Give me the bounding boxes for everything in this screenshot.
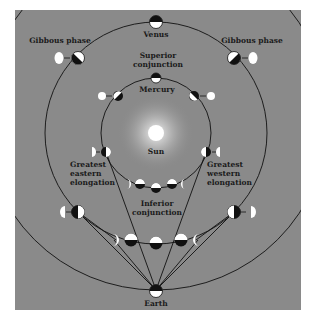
venus-gibbous-left [55,52,85,65]
label-sun: Sun [148,147,165,156]
label-greatest-western-2: western [206,169,241,178]
label-greatest-eastern-3: elongation [70,178,115,187]
mercury-greatest-western [201,147,220,157]
venus-gibbous-appearance-left [55,52,64,64]
venus-greatest-western [228,206,257,219]
label-venus: Venus [142,30,168,39]
label-greatest-western-1: Greatest [207,160,243,169]
label-gibbous-phase-left: Gibbous phase [29,36,91,45]
inferior-planet-phases-diagram: Venus Gibbous phase Gibbous phase Superi… [15,10,301,310]
mercury-superior-conjunction [151,73,161,83]
label-superior-line2: conjunction [133,60,184,69]
venus-gibbous-right [228,52,258,65]
label-greatest-western-3: elongation [207,178,252,187]
label-mercury: Mercury [139,85,175,94]
label-greatest-eastern-2: eastern [70,169,102,178]
label-inferior-line1: Inferior [141,199,175,208]
label-inferior-line2: conjunction [132,208,183,217]
sun-icon [148,125,164,141]
mercury-inferior-conjunction [151,183,161,193]
earth-icon [150,285,163,298]
mercury-gibbous-right [189,91,215,101]
mercury-greatest-eastern [92,147,111,157]
label-superior-line1: Superior [140,51,178,60]
label-greatest-eastern-1: Greatest [70,160,106,169]
venus-gibbous-appearance-right [249,52,258,64]
label-gibbous-phase-right: Gibbous phase [221,36,283,45]
venus-superior-conjunction [150,16,163,29]
venus-greatest-eastern [60,206,85,219]
venus-inferior-conjunction [150,237,163,250]
mercury-gibbous-left [98,91,123,101]
diagram-panel: Venus Gibbous phase Gibbous phase Superi… [15,10,301,310]
label-earth: Earth [144,299,168,308]
